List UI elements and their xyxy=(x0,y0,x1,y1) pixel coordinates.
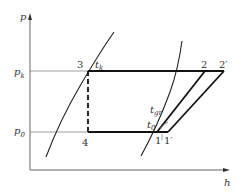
axes xyxy=(28,13,230,172)
saturated-vapor-curve xyxy=(141,41,182,156)
point-2prime-label: 2′ xyxy=(219,59,228,70)
compression-line-1-2 xyxy=(157,71,205,132)
pk-label: pk xyxy=(14,66,25,80)
y-axis-arrow-icon xyxy=(28,13,32,20)
tk-label: tk xyxy=(95,59,103,72)
tgr-label: tgr xyxy=(150,104,163,117)
x-axis-label: h xyxy=(224,177,230,188)
point-4-label: 4 xyxy=(82,137,88,148)
saturated-liquid-curve xyxy=(46,32,114,157)
point-1prime-label: 1′ xyxy=(164,135,173,146)
point-2-label: 2 xyxy=(201,59,207,70)
y-axis-label: p xyxy=(20,11,27,22)
p0-label: p0 xyxy=(14,125,25,139)
x-axis-arrow-icon xyxy=(223,168,230,172)
t0-label: t0 xyxy=(147,119,156,132)
ph-diagram: p h pk p0 3 4 1 1′ 2 2′ tk tgr t0 xyxy=(0,0,242,192)
compression-line-1p-2p xyxy=(168,71,224,132)
point-3-label: 3 xyxy=(77,59,83,70)
point-1-label: 1 xyxy=(155,135,161,146)
